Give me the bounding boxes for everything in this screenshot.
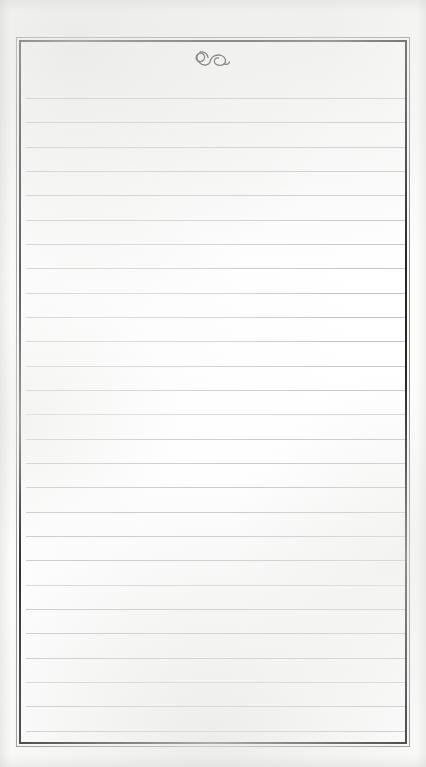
rule-line bbox=[26, 512, 405, 513]
rule-line bbox=[26, 366, 405, 367]
rule-line bbox=[26, 487, 405, 488]
writing-field[interactable] bbox=[21, 42, 405, 742]
rule-line bbox=[26, 220, 405, 221]
rule-line bbox=[26, 536, 405, 537]
rule-line bbox=[26, 463, 405, 464]
rule-line bbox=[26, 195, 405, 196]
rule-line bbox=[26, 414, 405, 415]
rule-line bbox=[26, 317, 405, 318]
rule-line bbox=[26, 171, 405, 172]
rule-line bbox=[26, 658, 405, 659]
rule-line bbox=[26, 122, 405, 123]
rule-line bbox=[26, 585, 405, 586]
rule-line bbox=[26, 390, 405, 391]
rule-line bbox=[26, 268, 405, 269]
rule-line bbox=[26, 293, 405, 294]
rule-line bbox=[26, 560, 405, 561]
rule-line bbox=[26, 609, 405, 610]
scanned-page bbox=[0, 0, 426, 767]
ruled-lines-group bbox=[21, 42, 405, 742]
rule-line bbox=[26, 439, 405, 440]
rule-line bbox=[26, 682, 405, 683]
rule-line bbox=[26, 147, 405, 148]
rule-line bbox=[26, 706, 405, 707]
rule-line bbox=[26, 341, 405, 342]
rule-line bbox=[26, 244, 405, 245]
rule-line bbox=[26, 633, 405, 634]
rule-line bbox=[26, 731, 405, 732]
rule-line bbox=[26, 98, 405, 99]
